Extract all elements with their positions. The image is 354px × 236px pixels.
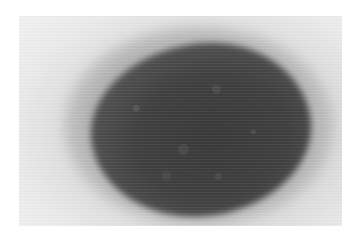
micrograph-photo [19, 16, 342, 226]
